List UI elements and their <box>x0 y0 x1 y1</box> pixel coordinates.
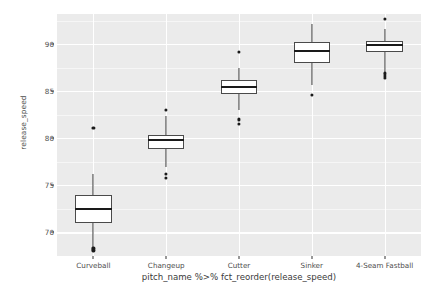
boxplot-cutter <box>221 14 257 256</box>
outlier-point <box>165 108 168 111</box>
outlier-point <box>383 17 386 20</box>
boxplot-curveball <box>75 14 111 256</box>
box-iqr <box>294 42 330 63</box>
x-tick-label-changeup: Changeup <box>148 261 185 270</box>
x-tick-mark <box>166 256 167 259</box>
x-tick-label-curveball: Curveball <box>76 261 110 270</box>
boxplot-figure: release_speed 7075808590 CurveballChange… <box>0 0 439 294</box>
boxplot-4-seam-fastball <box>366 14 402 256</box>
outlier-point <box>237 50 240 53</box>
y-tick-mark <box>51 232 54 233</box>
outlier-point <box>92 126 95 129</box>
median-line <box>148 139 184 141</box>
x-axis-title: pitch_name %>% fct_reorder(release_speed… <box>57 272 421 282</box>
outlier-point <box>310 93 313 96</box>
plot-panel <box>57 14 421 256</box>
outlier-point <box>237 118 240 121</box>
outlier-point <box>165 172 168 175</box>
y-axis-title: release_speed <box>19 63 28 183</box>
box-iqr <box>366 41 402 51</box>
x-tick-label-4-seam-fastball: 4-Seam Fastball <box>356 261 413 270</box>
median-line <box>221 86 257 88</box>
y-tick-mark <box>51 91 54 92</box>
y-tick-mark <box>51 185 54 186</box>
x-tick-mark <box>384 256 385 259</box>
boxplot-changeup <box>148 14 184 256</box>
outlier-point <box>92 249 95 252</box>
median-line <box>366 44 402 46</box>
box-iqr <box>148 135 184 148</box>
y-tick-mark <box>51 44 54 45</box>
x-tick-mark <box>311 256 312 259</box>
outlier-point <box>383 76 386 79</box>
outlier-point <box>165 176 168 179</box>
y-tick-mark <box>51 138 54 139</box>
x-tick-label-sinker: Sinker <box>301 261 323 270</box>
y-axis: 7075808590 <box>28 0 54 294</box>
median-line <box>75 208 111 210</box>
x-tick-label-cutter: Cutter <box>228 261 251 270</box>
median-line <box>294 50 330 52</box>
x-tick-mark <box>239 256 240 259</box>
boxplot-sinker <box>294 14 330 256</box>
x-tick-mark <box>93 256 94 259</box>
outlier-point <box>237 123 240 126</box>
